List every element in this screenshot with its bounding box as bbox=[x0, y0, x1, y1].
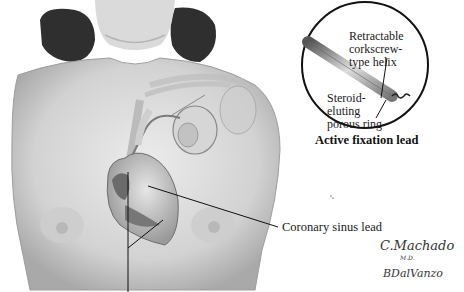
label-coronary-sinus-lead: Coronary sinus lead bbox=[282, 221, 382, 234]
label-ring: Steroid- eluting porous ring bbox=[327, 92, 382, 131]
inset-caption: Active fixation lead bbox=[315, 133, 418, 148]
signature-machado: C.Machado bbox=[380, 238, 454, 253]
label-ring-line-3: porous ring bbox=[327, 118, 382, 131]
label-helix: Retractable corkscrew- type helix bbox=[349, 30, 404, 69]
signature-dalvanzo: BDalVanzo bbox=[383, 267, 443, 280]
pacemaker-illustration: Retractable corkscrew- type helix Steroi… bbox=[0, 0, 464, 292]
signature-machado-suffix: M.D. bbox=[400, 254, 415, 261]
signature-machado-name: C.Machado bbox=[380, 238, 454, 253]
label-helix-line-3: type helix bbox=[349, 56, 404, 69]
